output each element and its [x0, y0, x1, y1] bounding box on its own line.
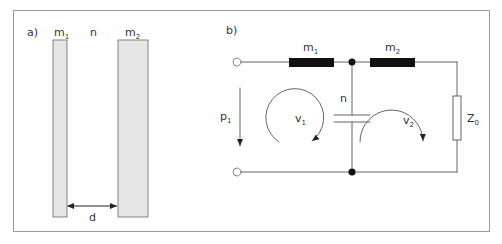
distance-label: d	[89, 211, 96, 224]
mass-1-element	[289, 58, 334, 67]
input-terminal-bottom	[233, 168, 241, 176]
impedance-element	[453, 96, 461, 140]
panel-a: a) m1 n m2 d	[27, 26, 148, 224]
mass1-label: m1	[303, 41, 318, 56]
mass2-label: m2	[385, 41, 400, 56]
plate-1	[53, 40, 67, 217]
panel-b: b) m1 m2 n Z0 p1 v1 v2	[220, 24, 479, 176]
input-terminal-top	[233, 58, 241, 66]
plate2-label: m2	[125, 26, 140, 41]
junction-bottom	[349, 169, 356, 176]
compliance-label: n	[340, 92, 347, 105]
plate1-label: m1	[54, 26, 69, 41]
junction-top	[349, 59, 356, 66]
impedance-label: Z0	[467, 112, 479, 127]
panel-b-label: b)	[226, 24, 237, 37]
figure-svg: a) m1 n m2 d b) m1 m2 n	[0, 0, 502, 244]
panel-a-label: a)	[27, 26, 38, 39]
mass-2-element	[370, 58, 415, 67]
velocity2-label: v2	[403, 114, 414, 129]
pressure-label: p1	[220, 110, 231, 125]
velocity1-label: v1	[295, 112, 306, 127]
medium-label: n	[90, 26, 97, 39]
plate-2	[118, 40, 148, 217]
